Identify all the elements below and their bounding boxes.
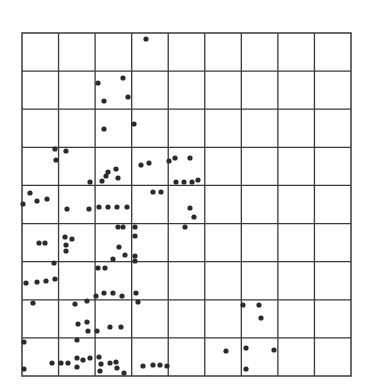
data-point bbox=[143, 36, 148, 41]
data-point bbox=[96, 354, 101, 359]
data-point bbox=[116, 244, 121, 249]
data-point bbox=[44, 196, 49, 201]
data-point bbox=[157, 362, 162, 367]
data-point bbox=[20, 201, 25, 206]
data-point bbox=[43, 278, 48, 283]
data-point bbox=[150, 362, 155, 367]
data-point bbox=[63, 242, 68, 247]
data-point bbox=[86, 206, 91, 211]
data-point bbox=[95, 265, 100, 270]
data-point bbox=[187, 205, 192, 210]
data-point bbox=[135, 299, 140, 304]
data-point bbox=[84, 298, 89, 303]
data-point bbox=[74, 355, 79, 360]
data-point bbox=[97, 368, 102, 373]
data-point bbox=[95, 80, 100, 85]
data-point bbox=[84, 319, 89, 324]
data-point bbox=[113, 166, 118, 171]
data-point bbox=[85, 328, 90, 333]
data-point bbox=[34, 279, 39, 284]
data-point bbox=[21, 339, 26, 344]
data-point bbox=[107, 324, 112, 329]
data-point bbox=[132, 253, 137, 258]
data-point bbox=[96, 204, 101, 209]
data-point bbox=[101, 290, 106, 295]
data-point bbox=[132, 233, 137, 238]
data-point bbox=[75, 321, 80, 326]
data-point bbox=[158, 189, 163, 194]
data-point bbox=[271, 347, 276, 352]
data-point bbox=[240, 302, 245, 307]
data-point bbox=[99, 178, 104, 183]
data-point bbox=[94, 328, 99, 333]
data-point bbox=[58, 360, 63, 365]
quadrat-scatter-plot bbox=[0, 0, 370, 387]
data-point bbox=[101, 126, 106, 131]
data-point bbox=[125, 94, 130, 99]
data-point bbox=[172, 155, 177, 160]
data-point bbox=[36, 240, 41, 245]
data-point bbox=[107, 360, 112, 365]
data-point bbox=[164, 363, 169, 368]
data-point bbox=[49, 360, 54, 365]
data-point bbox=[21, 366, 26, 371]
data-point bbox=[131, 121, 136, 126]
data-point bbox=[113, 359, 118, 364]
data-point bbox=[34, 198, 39, 203]
data-point bbox=[120, 224, 125, 229]
data-point bbox=[195, 177, 200, 182]
data-point bbox=[52, 146, 57, 151]
data-point bbox=[64, 206, 69, 211]
data-point bbox=[42, 240, 47, 245]
data-point bbox=[256, 302, 261, 307]
data-point bbox=[23, 280, 28, 285]
data-point bbox=[101, 98, 106, 103]
data-point bbox=[74, 337, 79, 342]
data-point bbox=[65, 360, 70, 365]
data-point bbox=[62, 234, 67, 239]
grid-lines bbox=[22, 33, 351, 376]
data-point bbox=[187, 155, 192, 160]
data-point bbox=[27, 190, 32, 195]
data-point bbox=[243, 345, 248, 350]
data-point bbox=[63, 248, 68, 253]
data-point bbox=[30, 300, 35, 305]
data-point bbox=[182, 224, 187, 229]
data-point bbox=[119, 293, 124, 298]
data-point bbox=[173, 179, 178, 184]
data-point bbox=[87, 355, 92, 360]
data-point bbox=[150, 189, 155, 194]
data-point bbox=[103, 173, 108, 178]
plot-frame bbox=[22, 33, 351, 376]
data-point bbox=[258, 315, 263, 320]
data-point bbox=[223, 348, 228, 353]
data-point bbox=[53, 157, 58, 162]
data-point bbox=[72, 301, 77, 306]
data-point bbox=[114, 204, 119, 209]
data-point bbox=[115, 224, 120, 229]
data-point bbox=[121, 370, 126, 375]
data-point bbox=[63, 148, 68, 153]
data-point bbox=[132, 258, 137, 263]
data-point bbox=[138, 162, 143, 167]
data-point bbox=[124, 204, 129, 209]
data-point bbox=[87, 179, 92, 184]
data-point bbox=[115, 175, 120, 180]
data-point bbox=[69, 236, 74, 241]
data-point bbox=[191, 214, 196, 219]
data-point bbox=[120, 75, 125, 80]
data-point bbox=[114, 365, 119, 370]
data-point bbox=[93, 293, 98, 298]
data-point bbox=[98, 361, 103, 366]
data-point bbox=[51, 260, 56, 265]
data-point bbox=[52, 276, 57, 281]
data-point bbox=[110, 256, 115, 261]
data-point bbox=[133, 290, 138, 295]
data-point bbox=[132, 224, 137, 229]
data-point bbox=[80, 357, 85, 362]
data-point bbox=[110, 290, 115, 295]
data-point bbox=[140, 363, 145, 368]
data-point bbox=[166, 158, 171, 163]
data-point bbox=[74, 364, 79, 369]
data-point bbox=[243, 366, 248, 371]
